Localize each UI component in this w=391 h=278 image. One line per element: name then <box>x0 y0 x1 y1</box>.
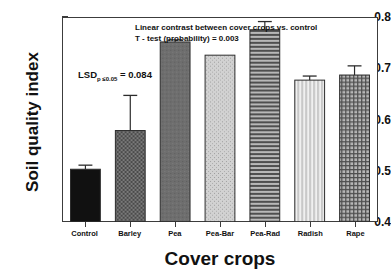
x-tick <box>85 222 86 227</box>
y-axis-title: Soil quality index <box>23 27 43 217</box>
bar <box>340 75 370 222</box>
contrast-line-2: T - test (probability) = 0.003 <box>135 33 317 44</box>
x-tick-label: Pea-Rad <box>250 229 280 238</box>
bar <box>115 131 145 222</box>
x-tick <box>310 222 311 227</box>
bar <box>71 169 101 221</box>
x-tick <box>265 222 266 227</box>
lsd-annotation: LSDp ≤0.05 = 0.084 <box>78 69 152 82</box>
x-tick-label: Radish <box>298 229 323 238</box>
x-tick-label: Control <box>71 229 98 238</box>
x-axis-title: Cover crops <box>62 248 378 270</box>
x-tick-label: Barley <box>118 229 141 238</box>
bar <box>295 80 325 222</box>
x-tick <box>175 222 176 227</box>
contrast-line-1: Linear contrast between cover crops vs. … <box>135 22 317 33</box>
x-tick-label: Pea-Bar <box>206 229 234 238</box>
x-tick <box>220 222 221 227</box>
x-tick-label: Pea <box>168 229 181 238</box>
contrast-annotation: Linear contrast between cover crops vs. … <box>135 22 317 44</box>
x-tick <box>355 222 356 227</box>
bars-and-errorbars <box>63 18 377 222</box>
bar <box>160 42 190 222</box>
lsd-value: = 0.084 <box>120 69 152 80</box>
x-tick-label: Rape <box>346 229 364 238</box>
x-tick <box>130 222 131 227</box>
bar <box>205 55 235 222</box>
plot-area <box>62 17 378 222</box>
lsd-subscript: p ≤0.05 <box>97 76 117 82</box>
bar <box>250 30 280 222</box>
lsd-label: LSD <box>78 69 97 80</box>
chart-figure: Soil quality index Cover crops 0.40.50.6… <box>0 0 391 278</box>
